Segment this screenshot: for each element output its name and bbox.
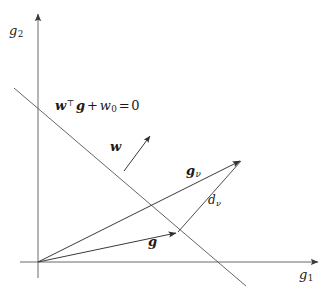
x-axis-label: g1 xyxy=(299,268,313,283)
vector-g-nu-arrow xyxy=(38,161,240,262)
equation-bias-base: w xyxy=(100,98,111,113)
vector-g-label-text: g xyxy=(148,234,157,249)
distance-d-nu-label-subscript: ν xyxy=(216,198,221,208)
axis-lines xyxy=(20,14,318,278)
y-axis-label: g2 xyxy=(9,24,23,39)
x-axis-label-subscript: 1 xyxy=(307,273,313,283)
equation-zero: 0 xyxy=(131,98,139,113)
equation-plus-operator: + xyxy=(85,98,100,113)
equation-transpose-symbol: ⊤ xyxy=(66,98,74,108)
distance-d-nu-label: dν xyxy=(208,194,221,207)
decision-boundary-equation-label: w⊤g+w0=0 xyxy=(55,99,140,114)
vector-g-nu-label-base: g xyxy=(186,163,195,178)
vector-w-arrow xyxy=(124,136,150,171)
equation-bias-subscript: 0 xyxy=(111,104,117,114)
equation-vector-g: g xyxy=(75,98,86,113)
vector-g-nu-label-subscript: ν xyxy=(195,169,201,179)
vector-g-nu-label: gν xyxy=(186,164,201,179)
distance-d-nu-label-base: d xyxy=(208,193,216,207)
equation-vector-w: w xyxy=(55,98,66,113)
vector-g-label: g xyxy=(148,235,157,248)
vector-w-label: w xyxy=(110,140,121,153)
diagram-canvas xyxy=(0,0,336,292)
equation-equals-operator: = xyxy=(117,98,132,113)
vector-w-label-text: w xyxy=(110,139,121,154)
y-axis-label-subscript: 2 xyxy=(17,29,23,39)
vector-projection-diagram: g2 g1 w⊤g+w0=0 w gν dν g xyxy=(0,0,336,292)
